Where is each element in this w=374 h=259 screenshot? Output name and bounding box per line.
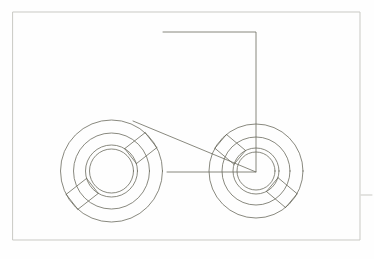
drawing-canvas — [0, 0, 374, 259]
canvas-background — [0, 0, 374, 259]
vehicle-line-drawing — [0, 0, 374, 259]
